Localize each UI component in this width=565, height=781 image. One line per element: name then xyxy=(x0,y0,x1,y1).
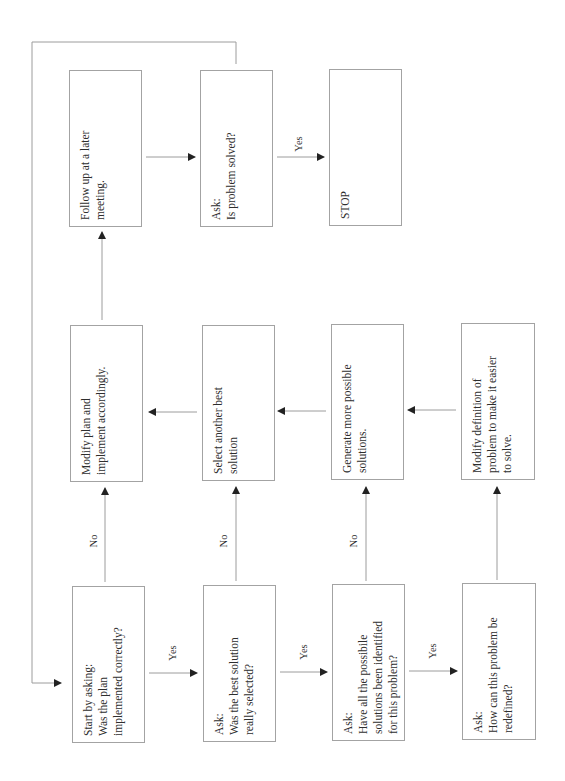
node-ask-redefine: Ask: How can this problem be redefined? xyxy=(462,583,536,740)
node-ask-best-text: Ask: Was the best solution really select… xyxy=(204,586,276,742)
node-stop-text: STOP xyxy=(330,70,402,226)
node-modify-definition: Modify definition of problem to make it … xyxy=(461,323,535,480)
node-generate-more: Generate more possible solutions. xyxy=(331,324,404,480)
node-modify-plan: Modify plan and implement accordingly. xyxy=(70,325,143,482)
label-yes-solved-to-stop: Yes xyxy=(293,136,304,151)
node-stop: STOP xyxy=(329,69,402,226)
node-start-text: Start by asking: Was the plan implemente… xyxy=(73,587,145,743)
node-modify-definition-text: Modify definition of problem to make it … xyxy=(462,324,535,480)
node-ask-redefine-text: Ask: How can this problem be redefined? xyxy=(463,584,536,740)
node-follow-up-text: Follow up at a later meeting. xyxy=(70,71,142,227)
label-no-start: No xyxy=(88,535,99,548)
label-no-ask-all: No xyxy=(348,535,359,548)
node-select-another-text: Select another best solution xyxy=(203,326,275,481)
node-ask-solved: Ask: Is problem solved? xyxy=(200,70,273,227)
node-ask-best: Ask: Was the best solution really select… xyxy=(203,585,276,742)
label-yes-ask-best: Yes xyxy=(298,644,309,659)
node-ask-all: Ask: Have all the possibile solutions be… xyxy=(332,584,405,741)
node-select-another: Select another best solution xyxy=(202,325,275,481)
label-yes-start: Yes xyxy=(167,645,178,660)
label-yes-ask-all: Yes xyxy=(427,643,438,658)
node-ask-solved-text: Ask: Is problem solved? xyxy=(201,71,273,227)
node-generate-more-text: Generate more possible solutions. xyxy=(332,325,404,480)
node-modify-plan-text: Modify plan and implement accordingly. xyxy=(71,326,143,482)
node-follow-up: Follow up at a later meeting. xyxy=(69,70,142,227)
flowchart-canvas: Follow up at a later meeting. Ask: Is pr… xyxy=(0,0,565,781)
node-ask-all-text: Ask: Have all the possibile solutions be… xyxy=(333,585,405,741)
label-no-ask-best: No xyxy=(218,535,229,548)
node-start: Start by asking: Was the plan implemente… xyxy=(72,586,145,743)
